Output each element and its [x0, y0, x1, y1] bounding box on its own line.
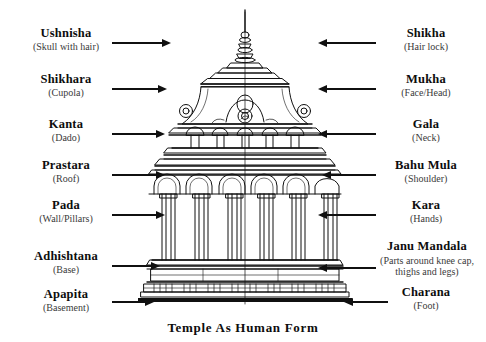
- label-term: Shikhara: [0, 73, 132, 87]
- label-mukha: Mukha (Face/Head): [366, 73, 486, 98]
- label-apapita: Apapita (Basement): [0, 288, 132, 313]
- label-gloss: (Hands): [366, 214, 486, 225]
- label-gloss: (Base): [0, 265, 132, 276]
- label-term: Mukha: [366, 73, 486, 87]
- label-pada: Pada (Wall/Pillars): [0, 199, 132, 224]
- label-term: Prastara: [0, 159, 132, 173]
- label-gloss: (Wall/Pillars): [0, 214, 132, 225]
- label-gloss: (Neck): [366, 133, 486, 144]
- label-term: Gala: [366, 118, 486, 132]
- label-janu-mandala: Janu Mandala (Parts around knee cap, thi…: [368, 240, 486, 277]
- pada-pillars: [160, 194, 339, 260]
- label-adhishtana: Adhishtana (Base): [0, 250, 132, 275]
- label-term: Bahu Mula: [366, 159, 486, 173]
- label-gloss: (Roof): [0, 174, 132, 185]
- label-term: Kara: [366, 199, 486, 213]
- label-term: Janu Mandala: [368, 240, 486, 254]
- label-gala: Gala (Neck): [366, 118, 486, 143]
- label-prastara: Prastara (Roof): [0, 159, 132, 184]
- label-kanta: Kanta (Dado): [0, 118, 132, 143]
- label-shikha: Shikha (Hair lock): [366, 27, 486, 52]
- label-gloss: (Shoulder): [366, 174, 486, 185]
- label-gloss: (Dado): [0, 133, 132, 144]
- label-term: Pada: [0, 199, 132, 213]
- label-term: Ushnisha: [0, 27, 132, 41]
- diagram-page: Ushnisha (Skull with hair) Shikhara (Cup…: [0, 0, 486, 342]
- label-gloss: (Parts around knee cap, thighs and legs): [368, 255, 486, 277]
- label-charana: Charana (Foot): [366, 286, 486, 311]
- label-gloss: (Cupola): [0, 88, 132, 99]
- label-kara: Kara (Hands): [366, 199, 486, 224]
- label-gloss: (Foot): [366, 301, 486, 312]
- label-term: Shikha: [366, 27, 486, 41]
- label-term: Apapita: [0, 288, 132, 302]
- label-gloss: (Hair lock): [366, 42, 486, 53]
- label-gloss: (Basement): [0, 303, 132, 314]
- label-shikhara: Shikhara (Cupola): [0, 73, 132, 98]
- label-gloss: (Face/Head): [366, 88, 486, 99]
- figure-caption: Temple As Human Form: [0, 320, 486, 336]
- label-bahu-mula: Bahu Mula (Shoulder): [366, 159, 486, 184]
- label-term: Charana: [366, 286, 486, 300]
- label-term: Adhishtana: [0, 250, 132, 264]
- label-ushnisha: Ushnisha (Skull with hair): [0, 27, 132, 52]
- temple-elevation-drawing: [138, 4, 352, 316]
- label-gloss: (Skull with hair): [0, 42, 132, 53]
- label-term: Kanta: [0, 118, 132, 132]
